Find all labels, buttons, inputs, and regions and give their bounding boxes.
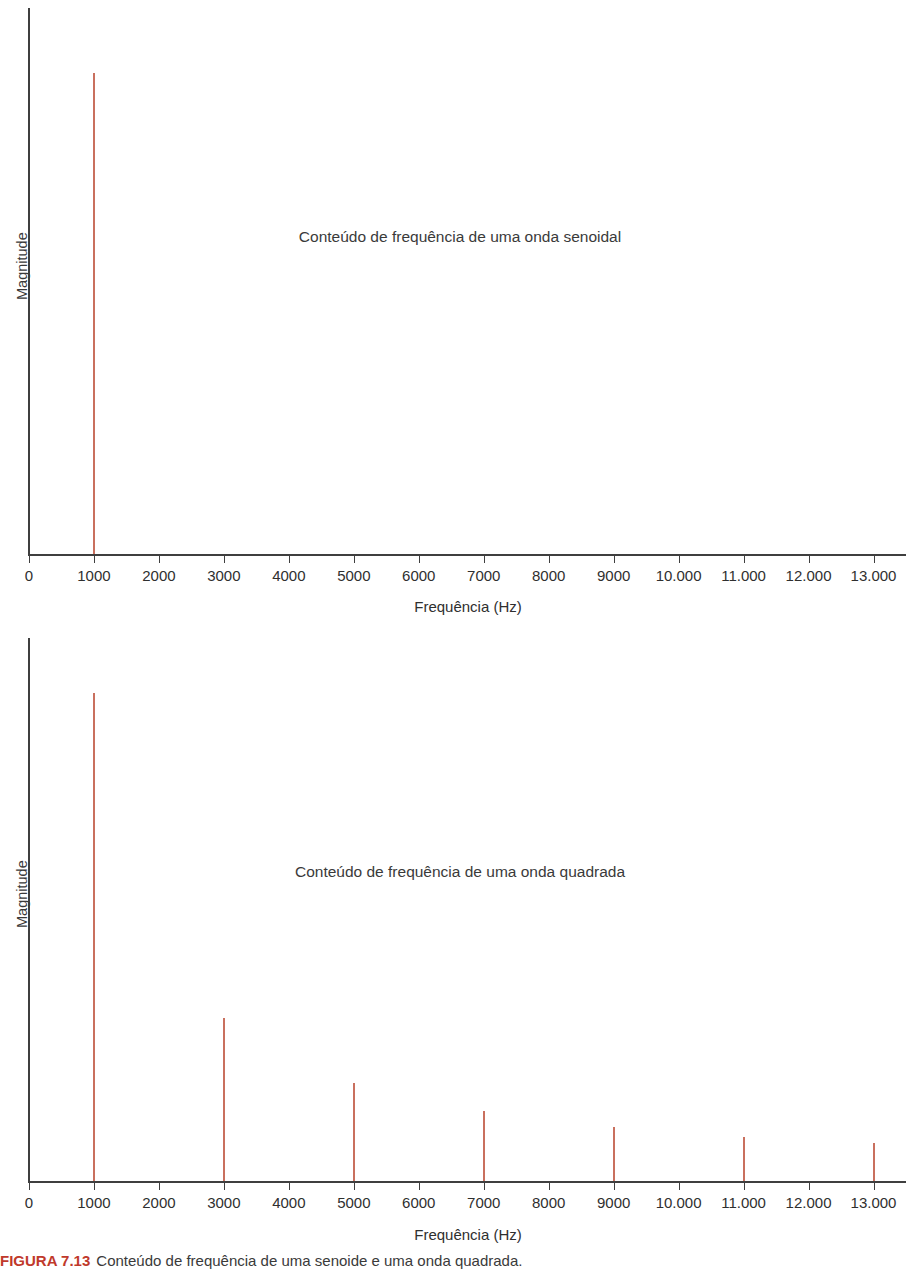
x-axis-tick <box>94 1183 95 1190</box>
x-axis-tick <box>94 556 95 563</box>
x-axis-tick-label: 2000 <box>142 567 175 584</box>
x-axis-tick-label: 12.000 <box>786 1194 832 1211</box>
x-axis-tick-label: 11.000 <box>721 567 766 584</box>
x-axis-tick <box>679 1183 680 1190</box>
figure-container: Magnitude Conteúdo de frequência de uma … <box>0 0 919 1271</box>
x-axis-tick <box>224 1183 225 1190</box>
x-axis-tick <box>679 556 680 563</box>
x-axis-tick-label: 5000 <box>337 567 370 584</box>
x-axis-tick-label: 0 <box>25 1194 33 1211</box>
x-axis-tick-label: 1000 <box>77 1194 110 1211</box>
x-axis-tick-label: 10.000 <box>656 567 702 584</box>
x-axis-tick-label: 7000 <box>467 1194 500 1211</box>
spectrum-spike <box>873 1143 875 1181</box>
x-axis-title: Frequência (Hz) <box>414 598 522 615</box>
spectrum-spike <box>223 1018 225 1181</box>
plot-area-square: Magnitude Conteúdo de frequência de uma … <box>0 628 919 1228</box>
x-axis-tick <box>224 556 225 563</box>
x-axis-tick <box>874 1183 875 1190</box>
x-axis-tick-label: 6000 <box>402 567 435 584</box>
x-axis-tick <box>549 1183 550 1190</box>
x-axis-tick <box>809 1183 810 1190</box>
x-axis-tick-label: 9000 <box>597 1194 630 1211</box>
x-axis-tick <box>289 556 290 563</box>
chart-panel-square: Magnitude Conteúdo de frequência de uma … <box>0 628 919 1248</box>
spectrum-spike <box>483 1111 485 1181</box>
x-axis-tick-label: 10.000 <box>656 1194 702 1211</box>
plot-area-sine: Magnitude Conteúdo de frequência de uma … <box>0 0 919 600</box>
chart-title-square: Conteúdo de frequência de uma onda quadr… <box>295 863 625 881</box>
chart-title-sine: Conteúdo de frequência de uma onda senoi… <box>299 228 621 246</box>
x-axis-tick <box>614 556 615 563</box>
x-axis-tick <box>289 1183 290 1190</box>
x-axis-tick-label: 13.000 <box>851 567 897 584</box>
x-axis-tick-label: 4000 <box>272 1194 305 1211</box>
chart-panel-sine: Magnitude Conteúdo de frequência de uma … <box>0 0 919 625</box>
x-axis-tick-label: 0 <box>25 567 33 584</box>
x-axis-tick-label: 9000 <box>597 567 630 584</box>
x-axis-tick <box>484 1183 485 1190</box>
x-axis-tick <box>354 1183 355 1190</box>
x-axis-tick-label: 8000 <box>532 1194 565 1211</box>
y-axis-title: Magnitude <box>14 860 30 928</box>
x-axis-tick-label: 1000 <box>77 567 110 584</box>
spectrum-spike <box>353 1083 355 1181</box>
x-axis-tick-label: 11.000 <box>721 1194 766 1211</box>
x-axis-tick <box>419 1183 420 1190</box>
x-axis-tick <box>159 1183 160 1190</box>
x-axis-tick <box>549 556 550 563</box>
x-axis-tick-label: 2000 <box>142 1194 175 1211</box>
x-axis-tick <box>809 556 810 563</box>
x-axis-tick <box>744 1183 745 1190</box>
x-axis-tick <box>614 1183 615 1190</box>
x-axis-tick <box>744 556 745 563</box>
x-axis-tick <box>484 556 485 563</box>
x-axis-tick-label: 13.000 <box>851 1194 897 1211</box>
x-axis-tick <box>159 556 160 563</box>
x-axis-tick <box>29 556 30 563</box>
x-axis-tick-label: 4000 <box>272 567 305 584</box>
x-axis-tick-label: 3000 <box>207 1194 240 1211</box>
x-axis-tick-label: 3000 <box>207 567 240 584</box>
x-axis-tick-label: 8000 <box>532 567 565 584</box>
figure-number: FIGURA 7.13 <box>0 1252 90 1269</box>
x-axis-tick-label: 12.000 <box>786 567 832 584</box>
x-axis-tick-label: 5000 <box>337 1194 370 1211</box>
spectrum-spike <box>743 1137 745 1181</box>
x-axis-tick <box>354 556 355 563</box>
y-axis-title: Magnitude <box>14 232 30 300</box>
figure-caption-text: Conteúdo de frequência de uma senoide e … <box>96 1252 522 1269</box>
x-axis-tick-label: 6000 <box>402 1194 435 1211</box>
x-axis-tick-label: 7000 <box>467 567 500 584</box>
spectrum-spike <box>93 693 95 1181</box>
figure-caption: FIGURA 7.13Conteúdo de frequência de uma… <box>0 1252 919 1269</box>
spectrum-spike <box>93 73 95 554</box>
spectrum-spike <box>613 1127 615 1181</box>
x-axis-tick <box>874 556 875 563</box>
x-axis-tick <box>29 1183 30 1190</box>
x-axis-title: Frequência (Hz) <box>414 1226 522 1243</box>
x-axis-tick <box>419 556 420 563</box>
